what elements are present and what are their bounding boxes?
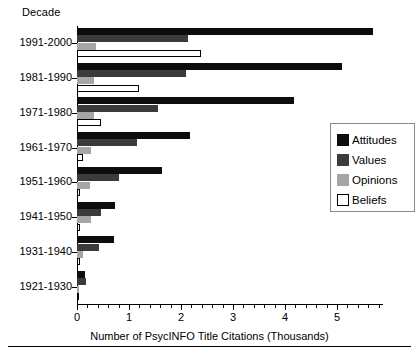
bar-values-1961-1970	[77, 139, 137, 146]
legend-item-opinions: Opinions	[337, 170, 414, 190]
bar-beliefs-1991-2000	[77, 50, 201, 57]
x-tick-minor	[295, 305, 296, 308]
x-tick-minor	[243, 305, 244, 308]
legend-label-beliefs: Beliefs	[352, 194, 387, 206]
x-tick-minor	[379, 305, 380, 308]
bar-beliefs-1971-1980	[77, 119, 101, 126]
x-tick-major	[285, 305, 286, 310]
x-tick-minor	[98, 305, 99, 308]
bar-values-1981-1990	[77, 70, 186, 77]
x-tick-minor	[212, 305, 213, 308]
bar-beliefs-1951-1960	[77, 189, 80, 196]
legend-label-values: Values	[352, 154, 386, 166]
bar-opinions-1971-1980	[77, 112, 94, 119]
bar-attitudes-1961-1970	[77, 132, 190, 139]
x-tick-minor	[306, 305, 307, 308]
bar-values-1971-1980	[77, 105, 158, 112]
y-category-label: 1961-1970	[0, 141, 72, 153]
y-category-label: 1981-1990	[0, 71, 72, 83]
x-tick-minor	[191, 305, 192, 308]
bar-attitudes-1951-1960	[77, 167, 162, 174]
x-tick-minor	[264, 305, 265, 308]
bar-opinions-1981-1990	[77, 77, 94, 84]
x-tick-minor	[150, 305, 151, 308]
x-tick-label: 2	[171, 311, 191, 323]
y-category-label: 1931-1940	[0, 245, 72, 257]
bar-attitudes-1921-1930	[77, 271, 85, 278]
bar-attitudes-1981-1990	[77, 63, 342, 70]
legend: Attitudes Values Opinions Beliefs	[330, 123, 415, 212]
x-tick-minor	[327, 305, 328, 308]
x-tick-label: 5	[327, 311, 347, 323]
bar-chart: Decade 1991-20001981-19901971-19801961-1…	[0, 0, 419, 358]
bar-attitudes-1941-1950	[77, 202, 115, 209]
x-tick-minor	[223, 305, 224, 308]
x-tick-minor	[171, 305, 172, 308]
y-category-label: 1921-1930	[0, 280, 72, 292]
bar-values-1931-1940	[77, 244, 99, 251]
y-category-label: 1991-2000	[0, 36, 72, 48]
x-tick-label: 0	[67, 311, 87, 323]
legend-item-attitudes: Attitudes	[337, 130, 414, 150]
x-tick-minor	[254, 305, 255, 308]
x-tick-major	[337, 305, 338, 310]
x-axis-title: Number of PsycINFO Title Citations (Thou…	[0, 330, 419, 342]
x-tick-label: 3	[223, 311, 243, 323]
x-tick-major	[77, 305, 78, 310]
x-tick-minor	[275, 305, 276, 308]
x-tick-minor	[316, 305, 317, 308]
x-tick-minor	[368, 305, 369, 308]
x-tick-minor	[87, 305, 88, 308]
bar-attitudes-1991-2000	[77, 28, 373, 35]
bar-values-1941-1950	[77, 209, 101, 216]
bar-values-1951-1960	[77, 174, 119, 181]
legend-label-opinions: Opinions	[352, 174, 397, 186]
y-category-label: 1941-1950	[0, 210, 72, 222]
bar-beliefs-1921-1930	[77, 293, 79, 300]
legend-swatch-opinions-icon	[337, 174, 349, 186]
bar-attitudes-1971-1980	[77, 97, 294, 104]
x-tick-minor	[139, 305, 140, 308]
x-tick-minor	[160, 305, 161, 308]
y-axis-title: Decade	[22, 6, 61, 18]
x-tick-major	[233, 305, 234, 310]
bar-beliefs-1931-1940	[77, 258, 80, 265]
x-tick-minor	[108, 305, 109, 308]
caption-divider	[8, 346, 411, 347]
bar-beliefs-1981-1990	[77, 85, 139, 92]
bar-values-1921-1930	[77, 278, 86, 285]
x-tick-minor	[358, 305, 359, 308]
x-tick-minor	[119, 305, 120, 308]
legend-swatch-beliefs-icon	[337, 194, 349, 206]
bar-opinions-1921-1930	[77, 286, 79, 293]
legend-item-beliefs: Beliefs	[337, 190, 414, 210]
y-category-label: 1951-1960	[0, 175, 72, 187]
x-tick-label: 4	[275, 311, 295, 323]
legend-swatch-values-icon	[337, 154, 349, 166]
bar-opinions-1961-1970	[77, 147, 91, 154]
figure-caption	[8, 349, 413, 358]
bar-opinions-1941-1950	[77, 216, 91, 223]
x-tick-label: 1	[119, 311, 139, 323]
bar-opinions-1931-1940	[77, 251, 83, 258]
x-tick-major	[181, 305, 182, 310]
legend-label-attitudes: Attitudes	[352, 134, 397, 146]
bar-beliefs-1941-1950	[77, 224, 80, 231]
bar-beliefs-1961-1970	[77, 154, 83, 161]
bar-opinions-1951-1960	[77, 182, 90, 189]
legend-swatch-attitudes-icon	[337, 134, 349, 146]
legend-item-values: Values	[337, 150, 414, 170]
x-tick-minor	[347, 305, 348, 308]
y-category-label: 1971-1980	[0, 106, 72, 118]
x-tick-major	[129, 305, 130, 310]
bar-values-1991-2000	[77, 35, 188, 42]
x-tick-minor	[202, 305, 203, 308]
bar-opinions-1991-2000	[77, 43, 96, 50]
bar-attitudes-1931-1940	[77, 236, 114, 243]
